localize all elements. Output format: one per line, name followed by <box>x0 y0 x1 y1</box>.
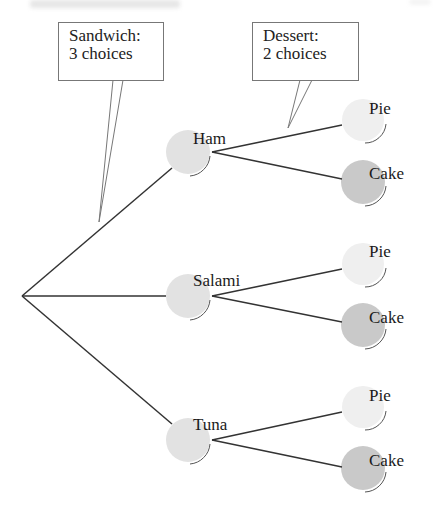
label-tuna: Tuna <box>193 416 227 434</box>
edge-root-ham <box>22 168 172 296</box>
sandwich-callout-line1: Sandwich: <box>69 27 157 45</box>
label-tuna-cake: Cake <box>369 452 404 470</box>
edge-ham-cake <box>212 152 342 179</box>
dessert-callout-line1: Dessert: <box>263 27 352 45</box>
label-ham-cake: Cake <box>369 165 404 183</box>
sandwich-callout-pointer <box>99 80 123 222</box>
label-salami-pie: Pie <box>369 243 391 261</box>
label-ham: Ham <box>193 130 226 148</box>
label-salami: Salami <box>193 272 240 290</box>
label-salami-cake: Cake <box>369 309 404 327</box>
edge-ham-pie <box>212 125 342 152</box>
dessert-callout-pointer <box>288 80 312 128</box>
edge-tuna-cake <box>212 440 342 467</box>
edge-tuna-pie <box>212 412 342 440</box>
edge-root-tuna <box>22 296 172 424</box>
edge-salami-cake <box>212 296 342 322</box>
sandwich-callout-line2: 3 choices <box>69 45 157 63</box>
label-ham-pie: Pie <box>369 100 391 118</box>
label-tuna-pie: Pie <box>369 387 391 405</box>
sandwich-callout: Sandwich: 3 choices <box>58 22 164 81</box>
dessert-callout: Dessert: 2 choices <box>252 22 359 81</box>
dessert-callout-line2: 2 choices <box>263 45 352 63</box>
